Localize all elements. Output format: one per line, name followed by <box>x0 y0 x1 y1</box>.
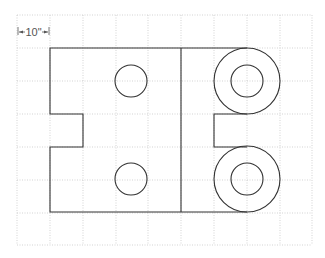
scale-label: 10" <box>25 26 41 38</box>
main-outline <box>50 48 247 212</box>
grid <box>17 15 312 245</box>
scale-dimension: 10" <box>18 26 49 38</box>
diagram-canvas: 10" <box>0 0 325 258</box>
right-notch <box>214 114 247 147</box>
part-drawing <box>50 48 280 212</box>
hole-bottom-left <box>115 163 147 195</box>
